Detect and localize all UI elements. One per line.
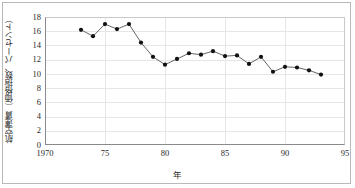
y-tick-label: 0 [0,141,41,150]
y-tick-label: 12 [0,55,41,64]
x-axis-title: 年 [0,168,355,180]
y-tick-label: 2 [0,126,41,135]
x-tick-label: 1970 [25,149,65,158]
x-tick-label: 75 [85,149,125,158]
plot-border [45,17,345,145]
y-tick-label: 8 [0,84,41,93]
plot-area [45,17,345,145]
y-tick-label: 4 [0,112,41,121]
x-tick-label: 80 [145,149,185,158]
y-tick-label: 10 [0,70,41,79]
x-tick-label: 90 [265,149,305,158]
y-tick-label: 18 [0,13,41,22]
x-tick-label: 95 [325,149,355,158]
y-tick-label: 16 [0,27,41,36]
chart-figure: 航空運賃（価格指数、パーセント） 024681012141618 1970758… [0,0,355,188]
x-tick-label: 85 [205,149,245,158]
y-tick-label: 14 [0,41,41,50]
y-tick-label: 6 [0,98,41,107]
